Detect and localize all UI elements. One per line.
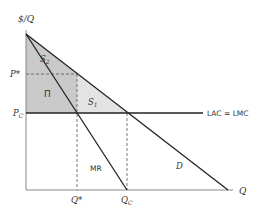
y-axis-label: $/Q [18,14,35,24]
monopoly-diagram: $/Q Q P* PC Q* QC MR D LAC = LMC S2 Π S1 [0,0,266,215]
demand-label: D [175,161,183,171]
q-star-label: Q* [71,195,83,205]
x-axis-label: Q [239,186,247,196]
lac-lmc-label: LAC = LMC [207,109,249,118]
q-c-label: QC [121,195,133,206]
p-star-label: P* [9,69,21,79]
profit-label: Π [44,89,51,99]
mr-label: MR [90,164,102,173]
p-c-label: PC [12,108,24,119]
region-profit [26,74,77,113]
